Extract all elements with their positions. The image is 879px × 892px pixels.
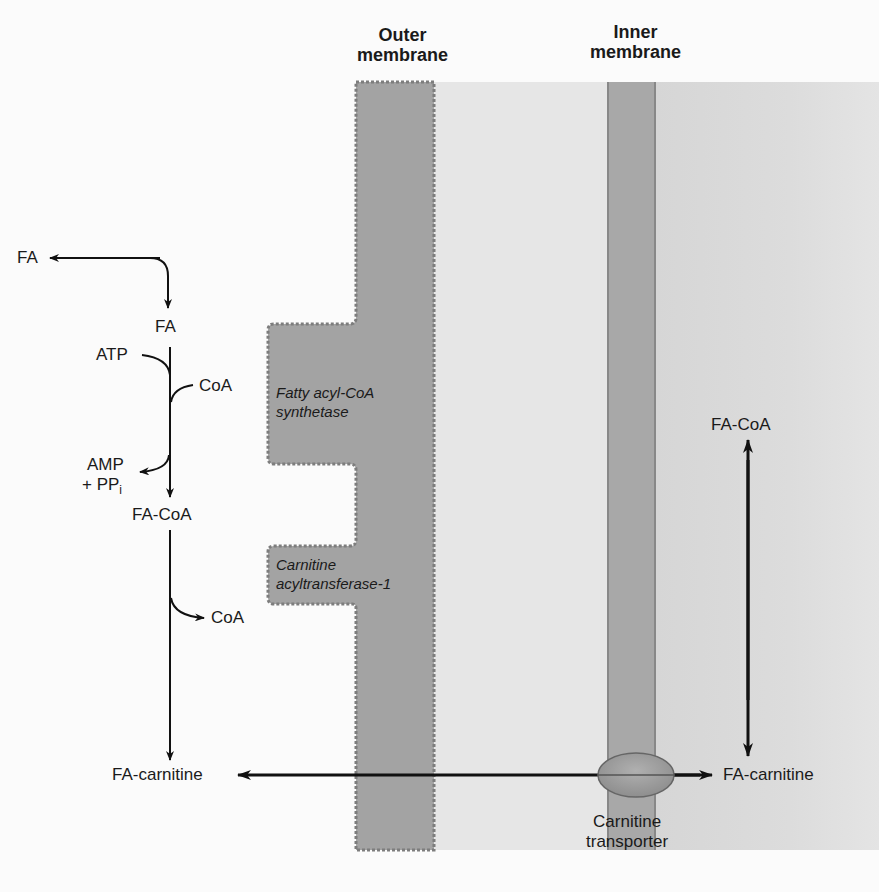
carnitine-transporter-label: Carnitine transporter [586,812,668,852]
fa-carnitine-matrix-label: FA-carnitine [723,765,814,784]
ppi-label: + PPi [82,475,122,500]
atp-label: ATP [96,345,128,364]
fatty-acyl-coa-synthetase-label: Fatty acyl-CoA synthetase [276,383,374,421]
fa-coa-label: FA-CoA [132,505,192,524]
fa-label: FA [155,317,176,336]
transporter-line1: Carnitine [586,812,668,832]
cat1-line1: Carnitine [276,555,391,574]
pathway-arrows [0,0,879,892]
coa-in-label: CoA [199,376,232,395]
fa-coa-matrix-label: FA-CoA [711,415,771,434]
ppi-prefix: + PP [82,475,119,494]
synthetase-line2: synthetase [276,402,374,421]
fa-carnitine-cytosol-label: FA-carnitine [112,765,203,784]
ppi-subscript: i [119,483,122,497]
coa-out-label: CoA [211,608,244,627]
transporter-line2: transporter [586,832,668,852]
carnitine-acyltransferase-1-label: Carnitine acyltransferase-1 [276,555,391,593]
synthetase-line1: Fatty acyl-CoA [276,383,374,402]
fa-label-top: FA [17,248,38,267]
amp-label: AMP [87,455,124,474]
cat1-line2: acyltransferase-1 [276,574,391,593]
carnitine-transporter-icon [595,749,677,803]
